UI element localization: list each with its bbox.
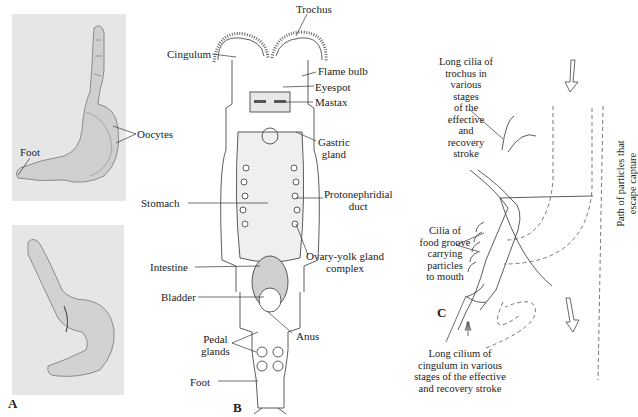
rotifer-photo-a2 [28, 239, 114, 376]
lc-line-7: and [458, 125, 473, 136]
label-ovary-yolk-gland: Ovary-yolk gland complex [306, 250, 384, 274]
lc-line-8: recovery [448, 137, 485, 148]
label-escape-path: Path of particles that escape capture [615, 114, 638, 254]
label-stomach: Stomach [141, 197, 180, 209]
cc-line-1: Long cilium of [429, 348, 492, 359]
label-bladder: Bladder [161, 291, 196, 303]
fg-line-2: food groove [419, 237, 470, 248]
panel-letter-a: A [8, 396, 17, 412]
label-foot-a: Foot [20, 146, 40, 158]
label-foot-b: Foot [190, 376, 210, 388]
ovary-line-2: complex [326, 262, 364, 274]
panel-letter-b: B [233, 400, 242, 416]
ovary-line-1: Ovary-yolk gland [306, 250, 384, 262]
cc-line-3: stages of the effective [414, 371, 506, 382]
fg-line-3: carrying [428, 248, 463, 259]
esc-line-2: escape capture [626, 153, 637, 215]
rotifer-diagram-b [214, 32, 326, 414]
pedal-line-2: glands [201, 345, 230, 357]
fg-line-4: particles [427, 260, 463, 271]
rotifer-photo-a1 [16, 26, 118, 183]
gastric-line-1: Gastric [318, 136, 350, 148]
label-pedal-glands: Pedal glands [201, 333, 230, 357]
label-intestine: Intestine [150, 261, 188, 273]
gastric-line-2: gland [322, 148, 346, 160]
label-trochus: Trochus [296, 3, 332, 15]
label-flame-bulb: Flame bulb [318, 65, 368, 77]
protonephridial-line-1: Protonephridial [324, 188, 392, 200]
label-cingulum-cilium: Long cilium of cingulum in various stage… [390, 348, 530, 394]
label-long-cilia-trochus: Long cilia of trochus in various stages … [414, 56, 518, 160]
lc-line-6: effective [448, 114, 485, 125]
panel-letter-c: C [437, 305, 446, 321]
fg-line-5: to mouth [426, 271, 464, 282]
lc-line-4: stages [453, 91, 479, 102]
label-mastax: Mastax [315, 96, 347, 108]
pedal-line-1: Pedal [203, 333, 227, 345]
protonephridial-line-2: duct [349, 200, 368, 212]
fg-line-1: Cilia of [429, 225, 461, 236]
label-eyespot: Eyespot [315, 81, 350, 93]
label-cingulum: Cingulum [167, 48, 211, 60]
label-oocytes: Oocytes [137, 128, 173, 140]
lc-line-2: trochus in [445, 68, 487, 79]
label-anus: Anus [296, 330, 319, 342]
lc-line-3: various [451, 79, 482, 90]
label-protonephridial-duct: Protonephridial duct [324, 188, 392, 212]
label-gastric-gland: Gastric gland [318, 136, 350, 160]
label-food-groove-cilia: Cilia of food groove carrying particles … [400, 225, 490, 283]
cc-line-4: and recovery stroke [419, 383, 502, 394]
lc-line-9: stroke [453, 148, 479, 159]
esc-line-1: Path of particles that [615, 140, 626, 227]
lc-line-5: of the [454, 102, 478, 113]
lc-line-1: Long cilia of [439, 56, 493, 67]
cc-line-2: cingulum in various [418, 360, 502, 371]
